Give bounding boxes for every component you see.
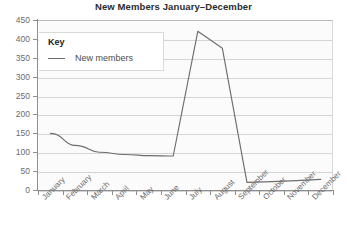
y-tick-label: 250 xyxy=(2,92,30,101)
x-tick-mark xyxy=(136,191,137,195)
x-tick-mark xyxy=(259,191,260,195)
y-tick-label: 100 xyxy=(2,148,30,157)
legend-title: Key xyxy=(48,37,65,47)
y-tick-label: 50 xyxy=(2,167,30,176)
caption-strip xyxy=(0,243,347,249)
x-tick-mark xyxy=(87,191,88,195)
chart-title: New Members January–December xyxy=(0,1,347,12)
y-tick-label: 300 xyxy=(2,73,30,82)
line-chart-figure: New Members January–December 05010015020… xyxy=(0,0,347,249)
x-tick-mark xyxy=(210,191,211,195)
y-tick-label: 350 xyxy=(2,54,30,63)
x-tick-mark xyxy=(38,191,39,195)
y-tick-label: 150 xyxy=(2,129,30,138)
y-tick-label: 400 xyxy=(2,35,30,44)
line-swatch-icon xyxy=(48,58,65,59)
y-tick-label: 450 xyxy=(2,16,30,25)
y-tick-label: 200 xyxy=(2,110,30,119)
y-tick-label: 0 xyxy=(2,186,30,195)
legend-item-label: New members xyxy=(75,53,133,63)
legend: Key New members xyxy=(39,32,164,71)
x-tick-mark xyxy=(333,191,334,195)
